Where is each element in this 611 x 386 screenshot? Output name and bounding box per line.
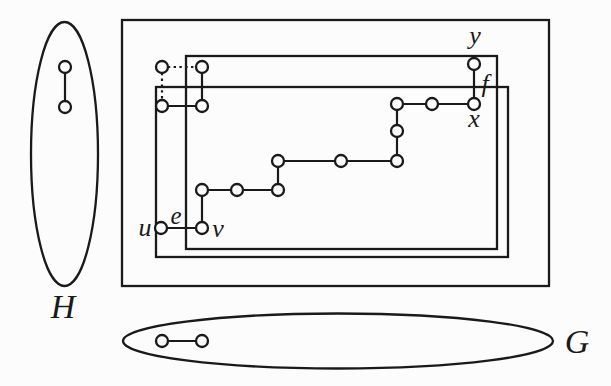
label-vertex-u: u	[139, 213, 152, 242]
label-vertex-v: v	[212, 214, 224, 243]
vertex-g2	[196, 335, 208, 347]
vertex-p11	[426, 98, 438, 110]
vertex-a1	[156, 61, 168, 73]
figure-canvas: HGuevyfx	[0, 0, 611, 386]
vertex-g1	[156, 335, 168, 347]
vertex-a2	[196, 61, 208, 73]
vertex-p7	[335, 155, 347, 167]
vertex-a4	[196, 100, 208, 112]
vertex-p3	[196, 184, 208, 196]
vertex-y	[468, 58, 480, 70]
vertex-p9	[391, 125, 403, 137]
label-graph-G: G	[565, 323, 590, 360]
label-edge-f: f	[481, 69, 492, 98]
label-vertex-y: y	[466, 21, 481, 50]
vertex-a3	[156, 100, 168, 112]
vertex-p6	[272, 155, 284, 167]
vertex-p8	[391, 155, 403, 167]
vertex-p4	[231, 184, 243, 196]
label-edge-e: e	[170, 202, 181, 229]
label-vertex-x: x	[467, 104, 480, 133]
vertex-v	[196, 222, 208, 234]
vertex-p10	[391, 98, 403, 110]
inner-box-upper	[186, 56, 497, 249]
label-graph-H: H	[50, 288, 78, 325]
vertex-h1	[59, 61, 71, 73]
inner-box-lower	[156, 87, 508, 257]
vertex-h2	[59, 101, 71, 113]
vertex-p5	[272, 184, 284, 196]
graph-minor-figure: HGuevyfx	[0, 0, 611, 386]
vertex-u	[155, 222, 167, 234]
